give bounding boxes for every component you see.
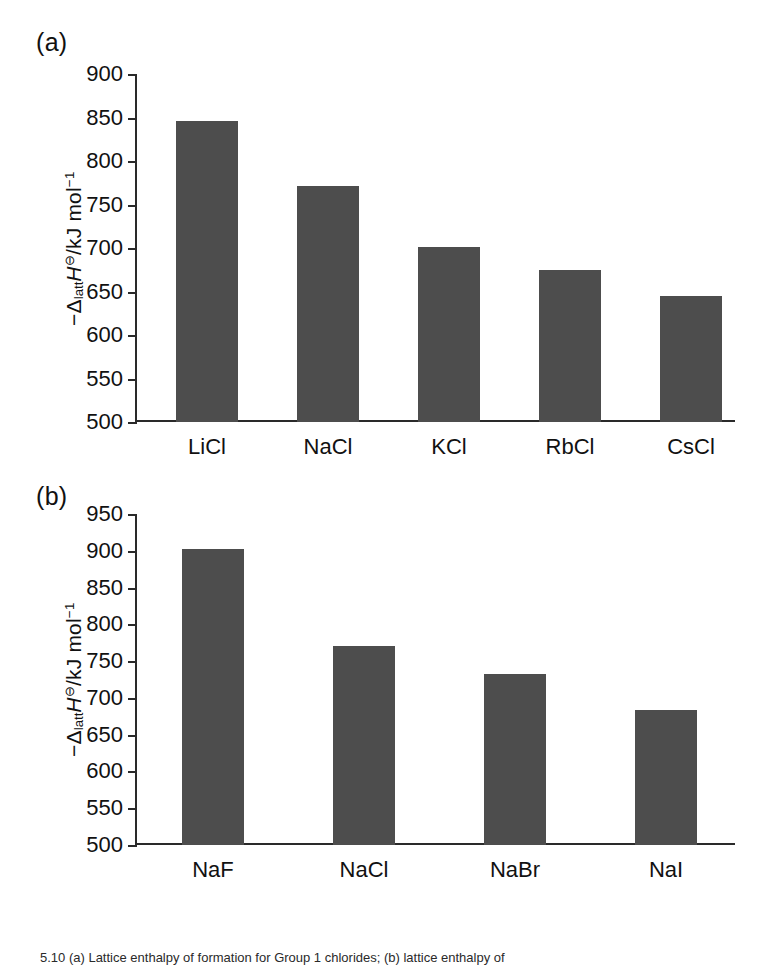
x-category-label-KCl: KCl — [431, 436, 466, 458]
panel-b-y-axis-label: −ΔlattH⊖/kJ mol−1 — [62, 602, 86, 757]
y-tick-label: 850 — [86, 577, 123, 599]
y-tick-label: 950 — [86, 503, 123, 525]
y-tick-label: 500 — [86, 834, 123, 856]
bar-NaCl — [333, 646, 395, 845]
y-axis-label-prefix: −Δ — [62, 299, 85, 326]
y-tick-mark — [128, 698, 137, 700]
y-tick-label: 700 — [86, 687, 123, 709]
x-category-label-LiCl: LiCl — [188, 436, 226, 458]
panel-b: (b) −ΔlattH⊖/kJ mol−1 500550600650700750… — [0, 470, 769, 945]
y-tick-mark — [128, 771, 137, 773]
y-tick-mark — [128, 205, 137, 207]
y-axis-label-standard-state: ⊖ — [62, 686, 77, 697]
y-tick-mark — [128, 118, 137, 120]
y-axis-label-subscript: latt — [71, 713, 86, 731]
panel-b-y-axis-line — [135, 514, 137, 845]
bar-LiCl — [176, 121, 238, 422]
y-tick-label: 900 — [86, 63, 123, 85]
y-tick-label: 900 — [86, 540, 123, 562]
y-tick-mark — [128, 588, 137, 590]
y-tick-label: 850 — [86, 107, 123, 129]
y-tick-label: 800 — [86, 613, 123, 635]
x-category-label-NaCl: NaCl — [340, 859, 389, 881]
bar-CsCl — [660, 296, 722, 422]
y-tick-label: 700 — [86, 237, 123, 259]
y-tick-label: 600 — [86, 760, 123, 782]
bar-NaBr — [484, 674, 546, 845]
x-category-label-CsCl: CsCl — [667, 436, 715, 458]
y-axis-label-exponent: −1 — [62, 171, 77, 187]
y-tick-label: 800 — [86, 150, 123, 172]
y-axis-label-units: /kJ mol — [62, 618, 85, 686]
panel-a: (a) −ΔlattH⊖/kJ mol−1 500550600650700750… — [0, 0, 769, 470]
figure-lattice-enthalpy: (a) −ΔlattH⊖/kJ mol−1 500550600650700750… — [0, 0, 769, 971]
y-axis-label-h: H — [62, 697, 85, 712]
y-tick-mark — [128, 661, 137, 663]
bar-KCl — [418, 247, 480, 422]
y-tick-mark — [128, 845, 137, 847]
panel-b-plot-area: 500550600650700750800850900950 NaFNaClNa… — [135, 514, 735, 845]
y-tick-mark — [128, 335, 137, 337]
y-tick-mark — [128, 624, 137, 626]
bar-RbCl — [539, 270, 601, 422]
y-axis-label-h: H — [62, 266, 85, 281]
x-category-label-RbCl: RbCl — [546, 436, 595, 458]
bar-NaCl — [297, 186, 359, 422]
y-tick-label: 500 — [86, 411, 123, 433]
y-axis-label-units: /kJ mol — [62, 187, 85, 255]
x-category-label-NaCl: NaCl — [304, 436, 353, 458]
y-tick-mark — [128, 292, 137, 294]
y-tick-label: 650 — [86, 724, 123, 746]
y-axis-label-standard-state: ⊖ — [62, 255, 77, 266]
figure-caption: 5.10 (a) Lattice enthalpy of formation f… — [40, 950, 760, 971]
bar-NaF — [182, 549, 244, 845]
y-tick-label: 600 — [86, 324, 123, 346]
y-tick-label: 650 — [86, 281, 123, 303]
panel-a-plot-area: 500550600650700750800850900 LiClNaClKClR… — [135, 74, 735, 422]
y-tick-mark — [128, 74, 137, 76]
y-tick-mark — [128, 422, 137, 424]
y-tick-label: 550 — [86, 368, 123, 390]
y-axis-label-exponent: −1 — [62, 602, 77, 618]
bar-NaI — [635, 710, 697, 845]
y-tick-mark — [128, 379, 137, 381]
y-tick-mark — [128, 735, 137, 737]
y-axis-label-subscript: latt — [71, 281, 86, 299]
y-tick-label: 550 — [86, 797, 123, 819]
y-tick-mark — [128, 161, 137, 163]
y-tick-mark — [128, 808, 137, 810]
x-category-label-NaBr: NaBr — [490, 859, 540, 881]
y-axis-label-prefix: −Δ — [62, 730, 85, 757]
panel-a-y-axis-label: −ΔlattH⊖/kJ mol−1 — [62, 171, 86, 326]
panel-a-tag: (a) — [36, 28, 67, 57]
y-tick-mark — [128, 551, 137, 553]
panel-b-tag: (b) — [36, 482, 67, 511]
y-tick-label: 750 — [86, 194, 123, 216]
y-tick-mark — [128, 248, 137, 250]
x-category-label-NaF: NaF — [192, 859, 234, 881]
y-tick-mark — [128, 514, 137, 516]
y-tick-label: 750 — [86, 650, 123, 672]
x-category-label-NaI: NaI — [649, 859, 683, 881]
